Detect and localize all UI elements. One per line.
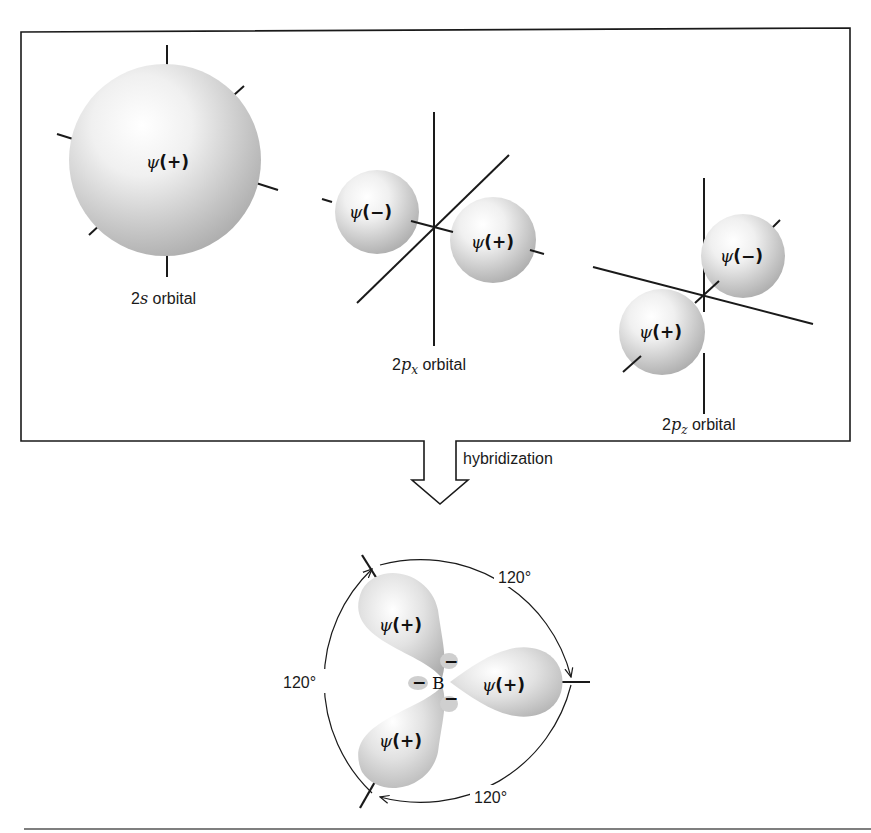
psi-label: ψ(+) [146,152,189,172]
psi-label: ψ(+) [379,731,422,751]
angle-label: 120° [498,569,531,586]
psi-label: ψ(−) [720,246,763,266]
orbital-hybridization-diagram: ψ(+) 2s orbital ψ(−) ψ(+) 2px orbital ψ(… [0,0,871,833]
small-lobe-sign: − [444,688,458,708]
orbital-label-2pz: 2pz orbital [662,415,736,437]
angle-label: 120° [283,674,316,691]
orbital-2px: ψ(−) ψ(+) 2px orbital [322,112,544,377]
orbital-2s: ψ(+) 2s orbital [57,45,278,308]
sp2-hybrid-diagram: − − − B ψ(+) ψ(+) ψ(+) 120° 120° 120° [279,555,590,808]
orbital-label-2px: 2px orbital [392,355,466,377]
psi-label: ψ(+) [639,322,682,342]
boron-atom-label: B [432,673,445,693]
psi-label: ψ(+) [379,615,422,635]
angle-label: 120° [474,789,507,806]
small-lobe-sign: − [444,651,458,671]
small-lobe-sign: − [412,672,426,692]
psi-label: ψ(+) [471,232,514,252]
orbital-2pz: ψ(−) ψ(+) 2pz orbital [593,178,813,437]
orbital-label-2s: 2s orbital [131,289,196,308]
psi-label: ψ(−) [349,202,392,222]
hybridization-label: hybridization [463,450,553,467]
psi-label: ψ(+) [482,675,525,695]
